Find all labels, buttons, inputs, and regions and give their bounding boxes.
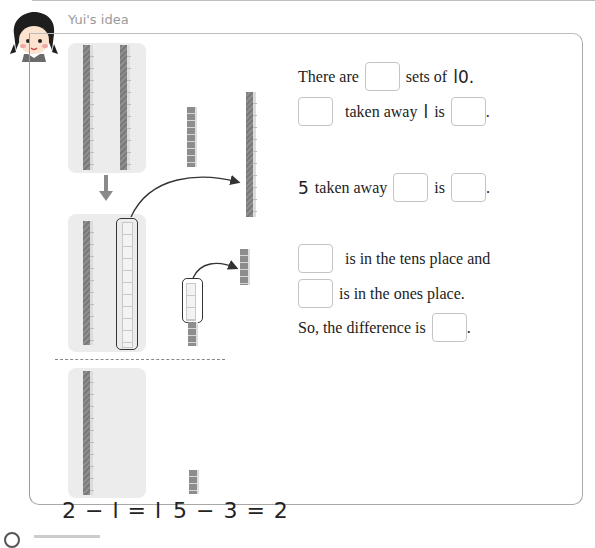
q3-suffix: is xyxy=(434,179,445,197)
question-line-6: So, the difference is . xyxy=(298,313,471,342)
step3-panel xyxy=(68,368,146,498)
answer-box-ones-place[interactable] xyxy=(298,279,333,308)
q6-end: . xyxy=(467,319,471,337)
q2-end: . xyxy=(486,103,490,121)
q3-number: 5 xyxy=(298,178,309,198)
ones-equation: 5 − 3 = 2 xyxy=(173,498,289,523)
question-line-1: There are sets of l0. xyxy=(298,62,474,91)
question-line-3: 5 taken away is . xyxy=(298,173,490,202)
q6-prefix: So, the difference is xyxy=(298,319,426,337)
q1-number: l0. xyxy=(453,67,474,87)
q2-middle: taken away xyxy=(345,103,417,121)
question-line-4: is in the tens place and xyxy=(298,244,490,273)
q4-suffix: is in the tens place and xyxy=(345,250,490,268)
answer-box-sets-of-ten[interactable] xyxy=(365,62,400,91)
q3-end: . xyxy=(486,179,490,197)
tens-equation: 2 − l = l xyxy=(62,498,162,523)
question-line-2: taken away l is . xyxy=(298,97,490,126)
q2-suffix: is xyxy=(434,103,445,121)
ones-cubes xyxy=(189,470,199,494)
answer-box-ones-result[interactable] xyxy=(451,173,486,202)
answer-box-tens-result[interactable] xyxy=(451,97,486,126)
q1-suffix: sets of xyxy=(406,68,447,86)
q3-middle: taken away xyxy=(315,179,387,197)
footer-bar xyxy=(34,535,100,538)
q2-number: l xyxy=(423,102,428,122)
question-line-5: is in the ones place. xyxy=(298,279,465,308)
answer-box-tens-start[interactable] xyxy=(298,97,333,126)
answer-box-difference[interactable] xyxy=(432,313,467,342)
dashed-separator xyxy=(55,359,225,360)
q5-suffix: is in the ones place. xyxy=(339,285,465,303)
answer-box-ones-taken[interactable] xyxy=(393,173,428,202)
tens-rod xyxy=(83,371,93,495)
q1-prefix: There are xyxy=(298,68,359,86)
circle-icon xyxy=(4,532,20,548)
answer-box-tens-place[interactable] xyxy=(298,244,333,273)
